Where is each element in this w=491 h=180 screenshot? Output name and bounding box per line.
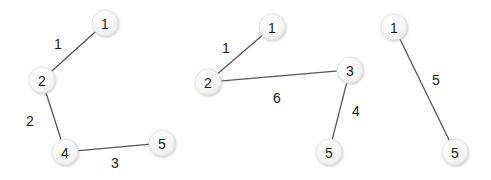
- graph-edge: [45, 91, 61, 141]
- edge-labels-group: 1231645: [26, 36, 440, 171]
- node-id-label: 5: [451, 145, 459, 161]
- graph-node: 5: [442, 139, 468, 165]
- edges-group: [45, 31, 449, 151]
- graph-node: 4: [52, 139, 78, 165]
- graph-edge: [332, 81, 347, 141]
- graph-node: 2: [29, 67, 55, 93]
- graph-node: 2: [195, 69, 221, 95]
- edge-weight-label: 4: [352, 103, 360, 119]
- graph-svg-layer: 1245123515 1231645: [0, 0, 491, 180]
- graph-edge: [219, 71, 338, 81]
- node-id-label: 5: [325, 145, 333, 161]
- node-id-label: 1: [390, 20, 398, 36]
- graph-node: 1: [259, 14, 285, 40]
- graph-node: 1: [381, 14, 407, 40]
- edge-weight-label: 1: [222, 40, 230, 56]
- edge-weight-label: 1: [54, 36, 62, 52]
- edge-weight-label: 5: [432, 72, 440, 88]
- graph-node: 5: [316, 139, 342, 165]
- node-id-label: 2: [38, 73, 46, 89]
- edge-weight-label: 3: [111, 155, 119, 171]
- node-id-label: 3: [346, 63, 354, 79]
- node-id-label: 1: [268, 20, 276, 36]
- graph-figure-canvas: 1245123515 1231645: [0, 0, 491, 180]
- graph-edge: [76, 144, 150, 151]
- node-id-label: 4: [61, 145, 69, 161]
- node-id-label: 1: [101, 16, 109, 32]
- edge-weight-label: 2: [26, 113, 34, 129]
- graph-node: 3: [337, 57, 363, 83]
- graph-node: 5: [149, 130, 175, 156]
- node-id-label: 2: [204, 75, 212, 91]
- graph-node: 1: [92, 10, 118, 36]
- node-id-label: 5: [158, 136, 166, 152]
- nodes-group: 1245123515: [29, 10, 468, 165]
- graph-edge: [399, 37, 450, 141]
- edge-weight-label: 6: [273, 90, 281, 106]
